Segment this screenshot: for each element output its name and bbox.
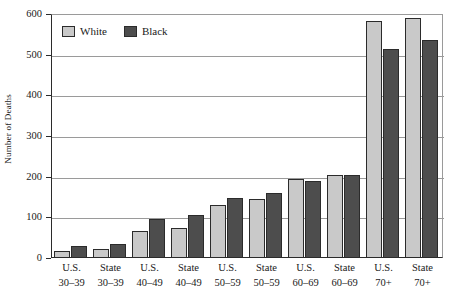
- bar-white: [366, 21, 382, 258]
- x-axis-label-agegroup: 30–39: [52, 275, 91, 290]
- chart-legend: WhiteBlack: [62, 26, 168, 37]
- bar-group: [91, 14, 130, 258]
- y-tick-mark: [46, 258, 51, 259]
- x-axis-label-agegroup: 70+: [364, 275, 403, 290]
- bar-black: [422, 40, 438, 258]
- bar-group: [403, 14, 442, 258]
- x-axis-label-region: U.S.: [286, 260, 325, 275]
- y-axis-title-text: Number of Deaths: [3, 94, 13, 164]
- bar-white: [210, 205, 226, 258]
- bar-group: [247, 14, 286, 258]
- bar-white: [288, 179, 304, 258]
- x-axis-label-region: State: [403, 260, 442, 275]
- bar-black: [110, 244, 126, 258]
- bar-group: [52, 14, 91, 258]
- bar-black: [383, 49, 399, 258]
- x-axis-label: U.S.60–69: [286, 260, 325, 290]
- x-axis-labels: U.S.30–39State30–39U.S.40–49State40–49U.…: [52, 260, 442, 297]
- x-axis-label-agegroup: 50–59: [208, 275, 247, 290]
- bar-white: [171, 228, 187, 259]
- bar-black: [188, 215, 204, 258]
- y-tick-label: 100: [8, 212, 42, 223]
- legend-label: White: [80, 26, 107, 37]
- x-axis-label: U.S.30–39: [52, 260, 91, 290]
- x-axis-label-agegroup: 60–69: [325, 275, 364, 290]
- bar-black: [344, 175, 360, 258]
- x-axis-label-region: State: [169, 260, 208, 275]
- legend-swatch-white: [62, 26, 75, 37]
- x-axis-label-region: State: [247, 260, 286, 275]
- y-tick-label: 300: [8, 131, 42, 142]
- x-axis-label-region: State: [91, 260, 130, 275]
- x-axis-label: U.S.40–49: [130, 260, 169, 290]
- x-axis-label-agegroup: 70+: [403, 275, 442, 290]
- bar-group: [130, 14, 169, 258]
- x-axis-label: State50–59: [247, 260, 286, 290]
- bar-black: [266, 193, 282, 258]
- bar-group: [169, 14, 208, 258]
- x-axis-label-region: U.S.: [208, 260, 247, 275]
- bar-black: [149, 219, 165, 258]
- bar-group: [208, 14, 247, 258]
- y-tick-label: 500: [8, 50, 42, 61]
- grouped-bar-chart: Number of Deaths 0100200300400500600 U.S…: [0, 0, 451, 297]
- x-axis-label-agegroup: 30–39: [91, 275, 130, 290]
- bar-white: [405, 18, 421, 258]
- bar-white: [132, 231, 148, 258]
- x-axis-label-agegroup: 40–49: [130, 275, 169, 290]
- y-tick-label: 200: [8, 172, 42, 183]
- x-axis-label: State40–49: [169, 260, 208, 290]
- bar-group: [286, 14, 325, 258]
- legend-item-white: White: [62, 26, 107, 37]
- y-tick-label: 600: [8, 9, 42, 20]
- x-axis-label-agegroup: 40–49: [169, 275, 208, 290]
- x-axis-label-region: U.S.: [52, 260, 91, 275]
- legend-label: Black: [142, 26, 168, 37]
- x-axis-label: U.S.50–59: [208, 260, 247, 290]
- bar-black: [305, 181, 321, 258]
- legend-item-black: Black: [124, 26, 168, 37]
- x-axis-label: U.S.70+: [364, 260, 403, 290]
- x-axis-label-agegroup: 50–59: [247, 275, 286, 290]
- x-axis-label-agegroup: 60–69: [286, 275, 325, 290]
- x-axis-label-region: U.S.: [364, 260, 403, 275]
- bar-black: [71, 246, 87, 258]
- bar-white: [54, 251, 70, 258]
- y-tick-label: 400: [8, 90, 42, 101]
- bar-white: [93, 249, 109, 258]
- bar-group: [364, 14, 403, 258]
- bar-group: [325, 14, 364, 258]
- bar-black: [227, 198, 243, 258]
- bar-white: [327, 175, 343, 258]
- x-axis-label-region: State: [325, 260, 364, 275]
- x-axis-label-region: U.S.: [130, 260, 169, 275]
- x-axis-label: State60–69: [325, 260, 364, 290]
- bar-white: [249, 199, 265, 258]
- x-axis-label: State30–39: [91, 260, 130, 290]
- bars-layer: [52, 14, 442, 258]
- y-tick-label: 0: [8, 253, 42, 264]
- legend-swatch-black: [124, 26, 137, 37]
- x-axis-label: State70+: [403, 260, 442, 290]
